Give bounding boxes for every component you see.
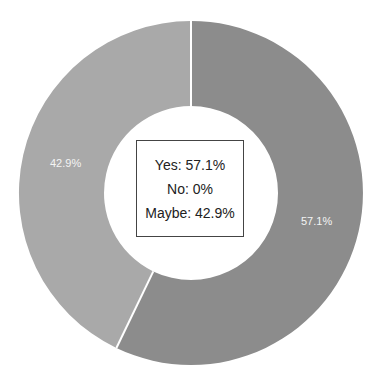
- slice-label-yes: 57.1%: [301, 215, 332, 227]
- legend-no: No: 0%: [167, 180, 213, 198]
- legend-yes: Yes: 57.1%: [155, 156, 225, 174]
- center-legend: Yes: 57.1% No: 0% Maybe: 42.9%: [136, 140, 244, 237]
- legend-maybe: Maybe: 42.9%: [145, 204, 235, 222]
- slice-label-maybe: 42.9%: [50, 157, 81, 169]
